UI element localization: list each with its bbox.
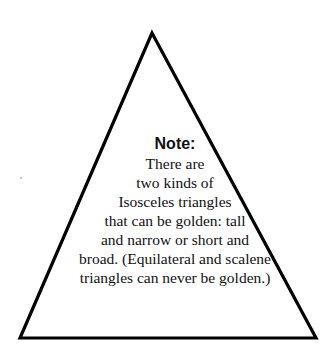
note-title: Note: (60, 134, 290, 154)
note-line: and narrow or short and (60, 230, 290, 249)
note-line: broad. (Equilateral and scalene (60, 249, 290, 268)
note-line: Isosceles triangles (60, 192, 290, 211)
note-line: that can be golden: tall (60, 211, 290, 230)
note-line: two kinds of (60, 173, 290, 192)
note-line: There are (60, 154, 290, 173)
note-line: triangles can never be golden.) (60, 268, 290, 287)
scan-speck (20, 177, 22, 179)
note-block: Note: There are two kinds of Isosceles t… (40, 134, 290, 287)
